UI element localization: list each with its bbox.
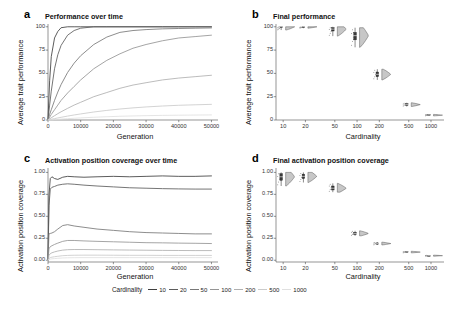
panel-d-ytick-0: 0.00 xyxy=(252,257,273,263)
panel-c-xtick-1: 10000 xyxy=(65,266,97,272)
panel-a-xtick-4: 40000 xyxy=(163,124,195,130)
panel-b-violin-20 xyxy=(299,26,317,28)
panel-b-ytick-0: 0 xyxy=(252,117,273,123)
legend-key-icon-20 xyxy=(169,289,178,290)
panel-c-ytick-0: 0.00 xyxy=(24,257,45,263)
panel-c-xtick-5: 50000 xyxy=(195,266,227,272)
panel-b-violin-100 xyxy=(351,28,368,48)
panel-b-xtick-0: 10 xyxy=(271,124,295,130)
panel-c-xtick-0: 0 xyxy=(32,266,64,272)
panel-d-ytick-4: 1.00 xyxy=(252,169,273,175)
panel-b-violin-50 xyxy=(329,27,346,36)
legend-key-icon-100 xyxy=(210,289,219,290)
legend-label-100: 100 xyxy=(221,287,231,293)
panel-b-ytick-2: 50 xyxy=(252,70,273,76)
legend-key-icon-50 xyxy=(190,289,199,290)
panel-a-series-1000 xyxy=(48,115,211,120)
panel-c: c Activation position coverage over time… xyxy=(0,150,228,285)
panel-d-xtick-6: 1000 xyxy=(419,266,443,272)
panel-d-violin-100 xyxy=(351,231,368,236)
legend-title: Cardinality xyxy=(112,286,142,293)
legend-label-50: 50 xyxy=(201,287,208,293)
panel-a-ytick-2: 50 xyxy=(24,70,45,76)
panel-c-series-20 xyxy=(48,184,211,260)
legend-label-200: 200 xyxy=(245,287,255,293)
panel-a: a Performance over time Average trait pe… xyxy=(0,0,228,150)
panel-a-xtick-0: 0 xyxy=(32,124,64,130)
panel-c-ytick-1: 0.25 xyxy=(24,235,45,241)
legend-item-200[interactable]: 200 xyxy=(234,287,255,293)
panel-d-violin-50 xyxy=(329,183,346,192)
panel-d-ytick-3: 0.75 xyxy=(252,191,273,197)
legend-key-icon-10 xyxy=(148,289,157,290)
panel-d-violin-500 xyxy=(403,251,421,253)
legend-key-icon-200 xyxy=(234,289,243,290)
panel-b-xtick-1: 20 xyxy=(293,124,317,130)
legend-key-icon-1000 xyxy=(282,289,291,290)
panel-b: b Final performance Average trait perfor… xyxy=(228,0,455,150)
panel-a-xtick-3: 30000 xyxy=(130,124,162,130)
panel-c-series-1000 xyxy=(48,258,211,261)
legend-label-1000: 1000 xyxy=(293,287,306,293)
panel-d-xtick-5: 500 xyxy=(397,266,421,272)
panel-a-series-500 xyxy=(48,104,211,120)
panel-d-violin-200 xyxy=(373,242,391,245)
panel-d-xtick-2: 50 xyxy=(323,266,347,272)
panel-c-series-10 xyxy=(48,176,211,260)
panel-d-ytick-2: 0.50 xyxy=(252,213,273,219)
panel-b-violin-200 xyxy=(373,69,390,80)
panel-a-xtick-5: 50000 xyxy=(195,124,227,130)
panel-a-xtick-2: 20000 xyxy=(97,124,129,130)
panel-a-ytick-4: 100 xyxy=(24,24,45,30)
legend-item-500[interactable]: 500 xyxy=(258,287,279,293)
panel-b-violin-500 xyxy=(403,103,421,107)
legend-item-20[interactable]: 20 xyxy=(169,287,187,293)
panel-d-ytick-1: 0.25 xyxy=(252,235,273,241)
panel-d-violin-10 xyxy=(277,172,294,186)
panel-a-series-200 xyxy=(48,75,211,120)
panel-d-xtick-0: 10 xyxy=(271,266,295,272)
panel-c-xtick-3: 30000 xyxy=(130,266,162,272)
panel-d-violin-20 xyxy=(299,172,316,182)
panel-a-ytick-1: 25 xyxy=(24,94,45,100)
legend-label-500: 500 xyxy=(269,287,279,293)
legend-item-100[interactable]: 100 xyxy=(210,287,231,293)
panel-b-xtick-4: 200 xyxy=(367,124,391,130)
panel-b-xtick-2: 50 xyxy=(323,124,347,130)
panel-b-ytick-1: 25 xyxy=(252,94,273,100)
panel-a-xtick-1: 10000 xyxy=(65,124,97,130)
figure-root: a Performance over time Average trait pe… xyxy=(0,0,455,310)
panel-c-xtick-2: 20000 xyxy=(97,266,129,272)
panel-c-ytick-2: 0.50 xyxy=(24,213,45,219)
panel-b-violin-1000 xyxy=(425,114,443,116)
legend-label-10: 10 xyxy=(159,287,166,293)
panel-b-xtick-5: 500 xyxy=(397,124,421,130)
panel-d: d Final activation position coverage Act… xyxy=(228,150,455,285)
panel-b-ytick-4: 100 xyxy=(252,24,273,30)
legend-item-50[interactable]: 50 xyxy=(190,287,208,293)
panel-b-ytick-3: 75 xyxy=(252,47,273,53)
legend-label-20: 20 xyxy=(180,287,187,293)
legend-key-icon-500 xyxy=(258,289,267,290)
cardinality-legend: Cardinality 1020501002005001000 xyxy=(112,286,307,293)
panel-d-xtick-1: 20 xyxy=(293,266,317,272)
legend-item-1000[interactable]: 1000 xyxy=(282,287,306,293)
panel-c-ytick-3: 0.75 xyxy=(24,191,45,197)
panel-a-ytick-0: 0 xyxy=(24,117,45,123)
panel-b-xtick-3: 100 xyxy=(345,124,369,130)
panel-d-xtick-3: 100 xyxy=(345,266,369,272)
panel-b-xtick-6: 1000 xyxy=(419,124,443,130)
panel-d-xtick-4: 200 xyxy=(367,266,391,272)
panel-a-ytick-3: 75 xyxy=(24,47,45,53)
panel-c-ytick-4: 1.00 xyxy=(24,169,45,175)
panel-c-xtick-4: 40000 xyxy=(163,266,195,272)
panel-b-violin-10 xyxy=(277,27,295,31)
panel-d-violin-1000 xyxy=(425,255,443,257)
legend-item-10[interactable]: 10 xyxy=(148,287,166,293)
